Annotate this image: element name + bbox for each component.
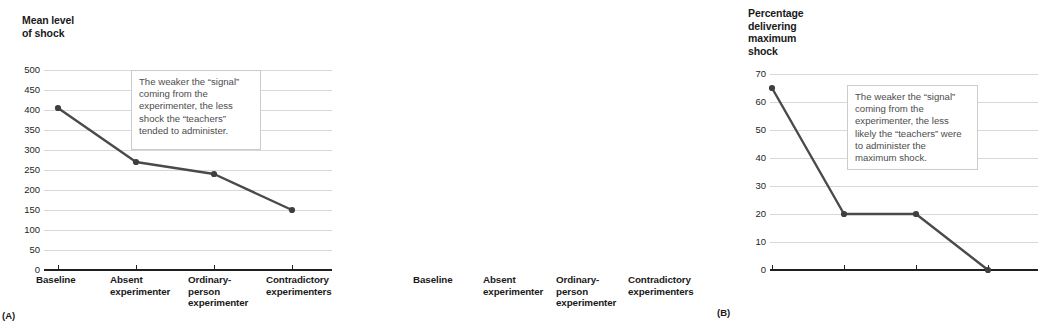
data-point-marker: [55, 105, 61, 111]
x-category-label: Contradictory experimenters: [266, 274, 348, 297]
chart-b-axis-title: Percentage delivering maximum shock: [748, 7, 804, 57]
chart-b-callout-note: The weaker the “signal” coming from the …: [847, 85, 978, 170]
x-category-label: Contradictory experimenters: [628, 274, 710, 297]
data-point-marker: [211, 171, 217, 177]
chart-a-panel-letter: (A): [2, 310, 15, 321]
data-point-marker: [133, 159, 139, 165]
x-category-label: Absent experimenter: [483, 274, 559, 297]
chart-b-panel-letter: (B): [717, 307, 730, 318]
x-category-label: Baseline: [413, 274, 485, 286]
data-point-marker: [913, 211, 919, 217]
chart-a-axis-title: Mean level of shock: [22, 14, 74, 39]
data-point-marker: [769, 85, 775, 91]
data-point-marker: [985, 267, 991, 273]
data-point-marker: [841, 211, 847, 217]
x-category-label: Absent experimenter: [110, 274, 186, 297]
chart-panel-a: Mean level of shock 05010015020025030035…: [0, 0, 350, 333]
chart-a-callout-note: The weaker the “signal” coming from the …: [131, 70, 261, 150]
x-category-label: Ordinary- person experimenter: [188, 274, 264, 309]
x-category-label: Baseline: [36, 274, 112, 286]
data-point-marker: [289, 207, 295, 213]
chart-panel-b: Percentage delivering maximum shock 0102…: [350, 0, 697, 333]
x-category-label: Ordinary- person experimenter: [556, 274, 628, 309]
